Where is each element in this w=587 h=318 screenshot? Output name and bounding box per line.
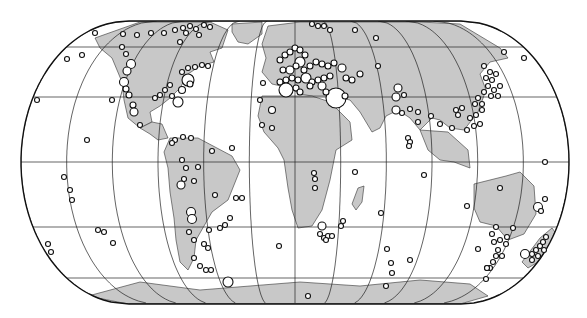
site-marker <box>177 181 185 189</box>
site-marker <box>349 77 355 83</box>
site-marker <box>269 107 276 114</box>
site-marker <box>498 186 503 191</box>
site-marker <box>400 111 405 116</box>
site-marker <box>180 158 185 163</box>
site-marker <box>196 165 201 170</box>
site-marker <box>223 277 233 287</box>
site-marker <box>456 113 461 118</box>
site-marker <box>149 31 154 36</box>
site-marker <box>102 230 107 235</box>
site-marker <box>293 63 299 69</box>
site-marker <box>541 240 546 245</box>
site-marker <box>240 196 245 201</box>
site-marker <box>460 106 465 111</box>
site-marker <box>130 102 136 108</box>
site-marker <box>407 144 412 149</box>
site-marker <box>511 226 516 231</box>
site-marker <box>536 254 541 259</box>
site-marker <box>392 93 400 101</box>
site-marker <box>297 47 303 53</box>
site-marker <box>307 83 313 89</box>
site-marker <box>494 72 499 77</box>
site-marker <box>173 97 183 107</box>
site-marker <box>492 240 497 245</box>
site-marker <box>200 63 205 68</box>
site-marker <box>468 116 473 121</box>
site-marker <box>374 36 379 41</box>
site-marker <box>530 252 535 257</box>
site-marker <box>353 28 358 33</box>
site-marker <box>357 71 363 77</box>
site-marker <box>213 193 218 198</box>
site-marker <box>197 33 202 38</box>
site-marker <box>188 24 193 29</box>
site-marker <box>490 232 495 237</box>
site-marker <box>194 27 199 32</box>
site-marker <box>322 24 327 29</box>
site-marker <box>277 57 283 63</box>
site-marker <box>186 66 191 71</box>
site-marker <box>234 196 239 201</box>
site-marker <box>494 254 499 259</box>
site-marker <box>392 106 400 114</box>
site-marker <box>353 170 358 175</box>
site-marker <box>184 31 189 36</box>
site-marker <box>389 261 394 266</box>
site-marker <box>138 123 143 128</box>
site-marker <box>376 64 381 69</box>
site-marker <box>339 224 344 229</box>
site-marker <box>258 98 263 103</box>
site-marker <box>313 59 319 65</box>
site-marker <box>489 94 494 99</box>
site-marker <box>120 78 129 87</box>
site-marker <box>530 258 535 263</box>
site-marker <box>187 230 192 235</box>
site-marker <box>342 93 348 99</box>
site-marker <box>228 216 233 221</box>
site-marker <box>484 277 489 282</box>
site-marker <box>189 136 194 141</box>
site-marker <box>504 242 509 247</box>
site-marker <box>184 166 189 171</box>
site-marker <box>218 226 223 231</box>
site-marker <box>416 120 421 125</box>
site-marker <box>543 160 548 165</box>
site-marker <box>111 241 116 246</box>
site-marker <box>341 219 346 224</box>
site-marker <box>408 258 413 263</box>
site-marker <box>330 234 335 239</box>
site-marker <box>46 242 51 247</box>
site-marker <box>187 81 193 87</box>
site-marker <box>49 250 54 255</box>
site-marker <box>416 110 421 115</box>
site-marker <box>170 141 175 146</box>
site-marker <box>313 177 318 182</box>
site-marker <box>121 32 126 37</box>
site-marker <box>123 86 129 92</box>
site-marker <box>124 52 129 57</box>
site-marker <box>319 61 325 67</box>
site-marker <box>539 209 544 214</box>
site-marker <box>123 67 131 75</box>
site-marker <box>478 122 483 127</box>
site-marker <box>498 238 503 243</box>
land-south-america <box>164 138 240 270</box>
site-marker <box>485 266 490 271</box>
site-marker <box>394 84 402 92</box>
site-marker <box>206 64 211 69</box>
site-marker <box>279 83 293 97</box>
site-marker <box>206 246 211 251</box>
site-marker <box>62 175 67 180</box>
site-marker <box>465 204 470 209</box>
site-marker <box>494 225 499 230</box>
site-marker <box>260 123 265 128</box>
site-marker <box>202 23 207 28</box>
site-marker <box>473 102 478 107</box>
site-marker <box>230 146 235 151</box>
land-antarctica <box>88 280 488 304</box>
site-marker <box>312 171 317 176</box>
site-marker <box>68 188 73 193</box>
site-marker <box>192 179 197 184</box>
site-marker <box>325 63 331 69</box>
site-marker <box>521 250 530 259</box>
